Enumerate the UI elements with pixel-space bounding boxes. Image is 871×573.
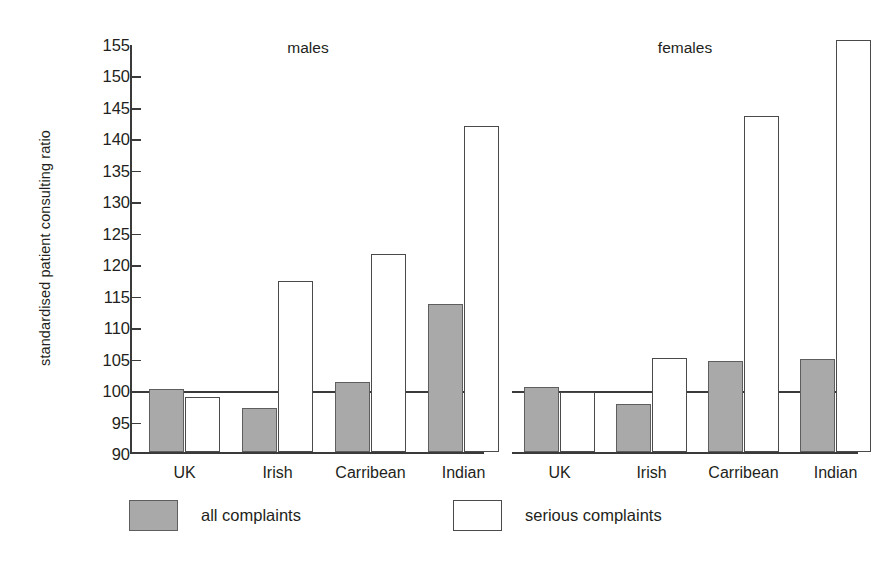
bar-females-irish-all-complaints <box>616 404 651 452</box>
y-axis-tick-135: 135 <box>88 163 130 180</box>
bar-males-indian-all-complaints <box>428 304 463 452</box>
x-axis-label-females-carribean: Carribean <box>708 464 779 482</box>
panel-males: males UKIrishCarribeanIndian <box>132 45 484 454</box>
bar-group-males-carribean: Carribean <box>335 45 406 452</box>
bar-group-females-carribean: Carribean <box>708 45 779 452</box>
bar-males-carribean-serious-complaints <box>371 254 406 452</box>
y-axis-tick-115: 115 <box>88 289 130 306</box>
legend-entry-serious-complaints: serious complaints <box>453 500 662 531</box>
bar-group-males-indian: Indian <box>428 45 499 452</box>
x-axis-label-females-indian: Indian <box>800 464 871 482</box>
legend-label-all-complaints: all complaints <box>201 506 301 525</box>
bar-females-indian-all-complaints <box>800 359 835 452</box>
y-axis-tick-150: 150 <box>88 68 130 85</box>
bar-males-uk-all-complaints <box>149 389 184 452</box>
panel-females: females UKIrishCarribeanIndian <box>512 45 858 454</box>
bar-group-females-indian: Indian <box>800 45 871 452</box>
chart-legend: all complaints serious complaints <box>0 500 862 550</box>
y-axis-tick-90: 90 <box>88 446 130 463</box>
x-axis-line-males <box>132 452 484 454</box>
bar-males-indian-serious-complaints <box>464 126 499 452</box>
x-axis-label-males-irish: Irish <box>242 464 313 482</box>
legend-swatch-serious-complaints <box>453 500 502 531</box>
x-axis-label-males-carribean: Carribean <box>335 464 406 482</box>
y-axis-title: standardised patient consulting ratio <box>37 48 53 448</box>
x-axis-label-females-uk: UK <box>524 464 595 482</box>
y-axis-tick-155: 155 <box>88 37 130 54</box>
bar-females-uk-all-complaints <box>524 387 559 452</box>
y-axis-tick-labels: 9095100105110115120125130135140145150155 <box>88 0 130 573</box>
bar-females-uk-serious-complaints <box>560 392 595 452</box>
y-axis-tick-125: 125 <box>88 226 130 243</box>
bar-males-uk-serious-complaints <box>185 397 220 452</box>
legend-swatch-all-complaints <box>129 500 178 531</box>
legend-entry-all-complaints: all complaints <box>129 500 301 531</box>
y-axis-tick-120: 120 <box>88 257 130 274</box>
x-axis-label-males-indian: Indian <box>428 464 499 482</box>
bar-males-carribean-all-complaints <box>335 382 370 452</box>
bar-males-irish-all-complaints <box>242 408 277 452</box>
bar-females-irish-serious-complaints <box>652 358 687 452</box>
bar-females-carribean-serious-complaints <box>744 116 779 452</box>
bar-males-irish-serious-complaints <box>278 281 313 452</box>
y-axis-tick-110: 110 <box>88 320 130 337</box>
bar-females-carribean-all-complaints <box>708 361 743 452</box>
y-axis-tick-95: 95 <box>88 415 130 432</box>
legend-label-serious-complaints: serious complaints <box>525 506 662 525</box>
x-axis-label-males-uk: UK <box>149 464 220 482</box>
bar-females-indian-serious-complaints <box>836 40 871 452</box>
y-axis-tick-140: 140 <box>88 131 130 148</box>
x-axis-line-females <box>512 452 858 454</box>
y-axis-tick-145: 145 <box>88 100 130 117</box>
y-axis-tick-130: 130 <box>88 194 130 211</box>
y-axis-tick-100: 100 <box>88 383 130 400</box>
y-axis-tick-105: 105 <box>88 352 130 369</box>
x-axis-label-females-irish: Irish <box>616 464 687 482</box>
